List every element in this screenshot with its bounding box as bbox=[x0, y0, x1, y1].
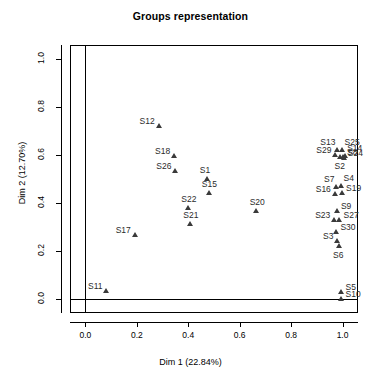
data-point-label: S12 bbox=[140, 117, 155, 126]
x-tick bbox=[343, 322, 344, 327]
data-point-label: S4 bbox=[344, 174, 354, 183]
scatter-plot-figure: Groups representation 0.00.20.40.60.81.0… bbox=[0, 0, 381, 386]
triangle-marker-icon bbox=[332, 191, 338, 196]
triangle-marker-icon bbox=[156, 123, 162, 128]
x-tick-label: 0.8 bbox=[276, 330, 306, 340]
data-point-label: S16 bbox=[316, 185, 331, 194]
triangle-marker-icon bbox=[172, 168, 178, 173]
data-point-label: S19 bbox=[346, 184, 361, 193]
data-point-label: S18 bbox=[155, 147, 170, 156]
x-tick-label: 0.0 bbox=[70, 330, 100, 340]
x-tick bbox=[240, 322, 241, 327]
data-point-label: S23 bbox=[315, 211, 330, 220]
x-tick bbox=[85, 322, 86, 327]
triangle-marker-icon bbox=[187, 221, 193, 226]
y-tick-label: 1.0 bbox=[36, 45, 46, 71]
data-point-label: S26 bbox=[156, 162, 171, 171]
triangle-marker-icon bbox=[334, 208, 340, 213]
triangle-marker-icon bbox=[206, 190, 212, 195]
data-points-layer: S12S18S26S1S15S22S21S20S17S11S13S25S29S2… bbox=[70, 45, 358, 313]
triangle-marker-icon bbox=[103, 288, 109, 293]
data-point-label: S3 bbox=[323, 232, 333, 241]
x-tick bbox=[188, 322, 189, 327]
x-tick-label: 0.4 bbox=[173, 330, 203, 340]
y-axis-label: Dim 2 (12.70%) bbox=[17, 93, 27, 253]
triangle-marker-icon bbox=[341, 155, 347, 160]
triangle-marker-icon bbox=[171, 153, 177, 158]
data-point-label: S10 bbox=[346, 290, 361, 299]
triangle-marker-icon bbox=[132, 232, 138, 237]
y-tick bbox=[56, 299, 61, 300]
x-tick-label: 0.2 bbox=[122, 330, 152, 340]
y-tick bbox=[56, 107, 61, 108]
data-point-label: S15 bbox=[202, 180, 217, 189]
triangle-marker-icon bbox=[338, 296, 344, 301]
data-point-label: S24 bbox=[348, 149, 363, 158]
data-point-label: S7 bbox=[324, 175, 334, 184]
data-point-label: S20 bbox=[250, 198, 265, 207]
data-point-label: S11 bbox=[88, 282, 103, 291]
y-tick-label: 0.0 bbox=[36, 285, 46, 311]
triangle-marker-icon bbox=[336, 243, 342, 248]
x-tick bbox=[291, 322, 292, 327]
data-point-label: S30 bbox=[340, 223, 355, 232]
data-point-label: S6 bbox=[333, 251, 343, 260]
data-point-label: S2 bbox=[335, 162, 345, 171]
y-tick bbox=[56, 203, 61, 204]
triangle-marker-icon bbox=[338, 289, 344, 294]
data-point-label: S17 bbox=[116, 226, 131, 235]
data-point-label: S27 bbox=[343, 211, 358, 220]
triangle-marker-icon bbox=[185, 205, 191, 210]
data-point-label: S22 bbox=[181, 195, 196, 204]
x-axis-line bbox=[70, 322, 358, 323]
data-point-label: S21 bbox=[183, 211, 198, 220]
triangle-marker-icon bbox=[339, 190, 345, 195]
y-axis-line bbox=[61, 45, 62, 313]
data-point-label: S1 bbox=[200, 166, 210, 175]
x-axis-label: Dim 1 (22.84%) bbox=[0, 357, 381, 367]
y-tick bbox=[56, 155, 61, 156]
triangle-marker-icon bbox=[333, 229, 339, 234]
triangle-marker-icon bbox=[253, 208, 259, 213]
y-tick-label: 0.2 bbox=[36, 237, 46, 263]
x-tick bbox=[137, 322, 138, 327]
y-tick-label: 0.4 bbox=[36, 189, 46, 215]
y-tick-label: 0.6 bbox=[36, 141, 46, 167]
data-point-label: S9 bbox=[341, 202, 351, 211]
y-tick bbox=[56, 251, 61, 252]
triangle-marker-icon bbox=[338, 183, 344, 188]
y-tick bbox=[56, 59, 61, 60]
x-tick-label: 1.0 bbox=[328, 330, 358, 340]
triangle-marker-icon bbox=[339, 147, 345, 152]
x-tick-label: 0.6 bbox=[225, 330, 255, 340]
page-title: Groups representation bbox=[0, 10, 381, 22]
data-point-label: S29 bbox=[316, 146, 331, 155]
y-tick-label: 0.8 bbox=[36, 93, 46, 119]
